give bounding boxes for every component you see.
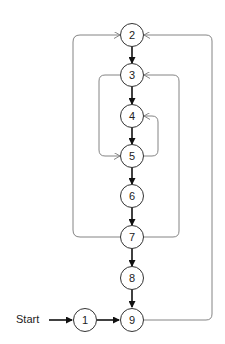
node-5: 5 [121, 145, 144, 168]
node-7: 7 [121, 226, 144, 249]
node-2-label: 2 [129, 29, 135, 41]
node-4-label: 4 [129, 110, 135, 122]
edge-3-to-5 [99, 75, 121, 156]
node-1-label: 1 [82, 314, 88, 326]
edge-5-to-4 [143, 116, 158, 156]
control-flow-diagram: Start 1 2 3 4 5 6 7 [0, 0, 225, 344]
node-5-label: 5 [129, 150, 135, 162]
edge-7-to-2 [73, 35, 121, 237]
node-8: 8 [121, 267, 144, 290]
node-2: 2 [121, 24, 144, 47]
node-3-label: 3 [129, 69, 135, 81]
node-7-label: 7 [129, 231, 135, 243]
start-label: Start [16, 313, 39, 325]
node-6-label: 6 [129, 190, 135, 202]
node-9: 9 [121, 309, 144, 332]
node-4: 4 [121, 105, 144, 128]
node-6: 6 [121, 185, 144, 208]
edge-9-to-2 [143, 35, 212, 320]
node-8-label: 8 [129, 272, 135, 284]
node-3: 3 [121, 64, 144, 87]
node-1: 1 [74, 309, 97, 332]
node-9-label: 9 [129, 314, 135, 326]
